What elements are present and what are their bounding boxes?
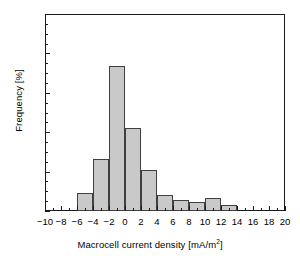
y-axis-tick: [45, 73, 48, 74]
x-axis-tick: [221, 206, 222, 211]
x-axis-tick: [253, 206, 254, 211]
x-axis-tick: [93, 206, 94, 211]
histogram-bar: [93, 159, 109, 211]
x-axis-tick: [213, 208, 214, 211]
x-axis-title-main: Macrocell current density [mA/m: [77, 239, 216, 250]
x-axis-tick: [173, 206, 174, 211]
y-axis-tick: [45, 201, 48, 202]
y-axis-tick: [45, 162, 48, 163]
y-axis-tick: [45, 63, 48, 64]
x-axis-tick: [69, 208, 70, 211]
histogram-figure: 01020304050 −10−8−6−4−202468101214161820…: [0, 0, 300, 264]
x-axis-tick: [285, 206, 286, 211]
y-axis-tick: [45, 132, 50, 133]
x-axis-tick: [261, 208, 262, 211]
y-axis-tick: [45, 191, 48, 192]
x-axis-tick: [77, 206, 78, 211]
x-axis-tick: [197, 208, 198, 211]
x-axis-tick: [269, 206, 270, 211]
x-axis-title-tail: ]: [220, 239, 223, 250]
x-tick-label: 20: [272, 217, 298, 227]
histogram-bar: [125, 128, 141, 211]
y-axis-tick: [45, 172, 50, 173]
y-axis-tick: [45, 122, 48, 123]
caption-strip: [0, 252, 300, 264]
y-axis-tick: [45, 44, 48, 45]
x-axis-tick: [157, 206, 158, 211]
y-axis-tick: [45, 24, 48, 25]
x-axis-tick: [53, 208, 54, 211]
y-axis-tick: [45, 34, 48, 35]
x-axis-tick: [245, 208, 246, 211]
y-axis-tick: [45, 53, 50, 54]
x-axis-tick: [149, 208, 150, 211]
histogram-bar: [109, 66, 125, 211]
x-axis-tick: [277, 208, 278, 211]
x-axis-tick: [141, 206, 142, 211]
y-axis-tick: [45, 181, 48, 182]
histogram-bar: [141, 170, 157, 211]
y-axis-tick: [45, 83, 48, 84]
y-axis-tick: [45, 152, 48, 153]
y-axis-tick: [45, 14, 50, 15]
x-axis-tick: [85, 208, 86, 211]
x-axis-tick: [181, 208, 182, 211]
x-axis-title: Macrocell current density [mA/m2]: [0, 238, 300, 250]
bars-layer: [45, 14, 285, 211]
x-axis-tick: [101, 208, 102, 211]
x-axis-tick: [109, 206, 110, 211]
x-axis-tick: [125, 206, 126, 211]
y-axis-title: Frequency [%]: [13, 56, 24, 146]
y-axis-tick: [45, 142, 48, 143]
x-axis-tick: [189, 206, 190, 211]
x-axis-tick: [165, 208, 166, 211]
y-axis-tick: [45, 93, 50, 94]
y-axis-tick: [45, 103, 48, 104]
x-axis-tick: [205, 206, 206, 211]
x-axis-tick: [117, 208, 118, 211]
x-axis-tick: [237, 206, 238, 211]
x-axis-tick: [133, 208, 134, 211]
x-axis-tick: [229, 208, 230, 211]
y-axis-tick: [45, 113, 48, 114]
x-axis-tick: [61, 206, 62, 211]
y-axis-tick: [45, 211, 50, 212]
